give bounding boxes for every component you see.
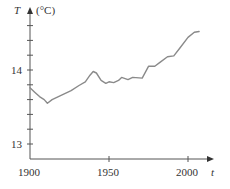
y-tick-label-13: 13 bbox=[11, 138, 23, 150]
temperature-line bbox=[30, 32, 199, 104]
y-tick-label-14: 14 bbox=[11, 64, 23, 76]
x-axis-arrow-icon bbox=[207, 156, 214, 162]
y-axis-unit: (°C) bbox=[36, 4, 55, 17]
x-tick-label-1900: 1900 bbox=[18, 166, 41, 178]
x-axis-symbol: t bbox=[211, 166, 215, 178]
x-tick-label-2000: 2000 bbox=[176, 166, 199, 178]
temperature-chart: T (°C) t 14 13 1900 1950 2000 bbox=[0, 0, 230, 189]
x-tick-label-1950: 1950 bbox=[97, 166, 120, 178]
y-axis-symbol: T bbox=[14, 4, 21, 16]
y-axis-arrow-icon bbox=[27, 7, 33, 14]
